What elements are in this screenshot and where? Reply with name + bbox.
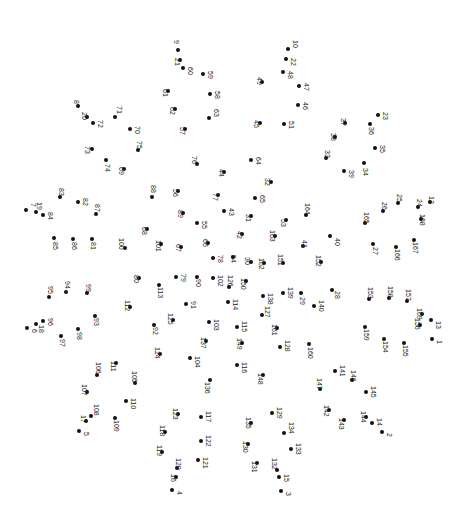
puzzle-dot-17[interactable] (84, 419, 88, 423)
puzzle-dot-124[interactable] (158, 352, 162, 356)
puzzle-dot-101[interactable] (159, 242, 163, 246)
puzzle-dot-29[interactable] (299, 291, 303, 295)
puzzle-dot-16[interactable] (174, 475, 178, 479)
puzzle-dot-136[interactable] (208, 378, 212, 382)
puzzle-dot-157[interactable] (405, 299, 409, 303)
puzzle-dot-144[interactable] (364, 415, 368, 419)
puzzle-dot-1[interactable] (430, 337, 434, 341)
puzzle-dot-42[interactable] (240, 232, 244, 236)
puzzle-dot-137[interactable] (204, 339, 208, 343)
puzzle-dot-49[interactable] (260, 80, 264, 84)
puzzle-dot-108[interactable] (89, 414, 93, 418)
puzzle-dot-41[interactable] (301, 244, 305, 248)
puzzle-dot-47[interactable] (297, 84, 301, 88)
puzzle-dot-97[interactable] (59, 334, 63, 338)
puzzle-dot-84[interactable] (41, 213, 45, 217)
puzzle-dot-160[interactable] (307, 342, 311, 346)
puzzle-dot-118[interactable] (163, 430, 167, 434)
puzzle-dot-38[interactable] (333, 135, 337, 139)
puzzle-dot-36[interactable] (368, 122, 372, 126)
puzzle-dot-65[interactable] (253, 196, 257, 200)
puzzle-dot-57[interactable] (183, 127, 187, 131)
puzzle-dot-93[interactable] (93, 314, 97, 318)
puzzle-dot-135[interactable] (249, 421, 253, 425)
puzzle-dot-148[interactable] (261, 373, 265, 377)
puzzle-dot-113[interactable] (157, 283, 161, 287)
puzzle-dot-122[interactable] (199, 439, 203, 443)
puzzle-dot-147[interactable] (318, 387, 322, 391)
puzzle-dot-121[interactable] (196, 458, 200, 462)
puzzle-dot-10[interactable] (286, 47, 290, 51)
puzzle-dot-99[interactable] (85, 291, 89, 295)
puzzle-dot-34[interactable] (362, 161, 366, 165)
puzzle-dot-149[interactable] (240, 341, 244, 345)
puzzle-dot-54[interactable] (231, 255, 235, 259)
puzzle-dot-94[interactable] (64, 290, 68, 294)
puzzle-dot-2[interactable] (380, 430, 384, 434)
puzzle-dot-89[interactable] (181, 211, 185, 215)
puzzle-dot-44[interactable] (222, 170, 226, 174)
puzzle-dot-156[interactable] (418, 323, 422, 327)
puzzle-dot-67[interactable] (179, 245, 183, 249)
puzzle-dot-33[interactable] (324, 156, 328, 160)
puzzle-dot-167[interactable] (412, 238, 416, 242)
puzzle-dot-134[interactable] (282, 431, 286, 435)
puzzle-dot-74[interactable] (104, 158, 108, 162)
puzzle-dot-80[interactable] (137, 276, 141, 280)
puzzle-dot-78[interactable] (211, 256, 215, 260)
puzzle-dot-6[interactable] (25, 326, 29, 330)
puzzle-dot-19[interactable] (34, 210, 38, 214)
puzzle-dot-62[interactable] (173, 107, 177, 111)
puzzle-dot-23[interactable] (376, 113, 380, 117)
puzzle-dot-31[interactable] (249, 214, 253, 218)
puzzle-dot-120[interactable] (175, 466, 179, 470)
puzzle-dot-100[interactable] (123, 246, 127, 250)
puzzle-dot-133[interactable] (289, 447, 293, 451)
puzzle-dot-86[interactable] (71, 237, 75, 241)
puzzle-dot-32[interactable] (269, 180, 273, 184)
puzzle-dot-66[interactable] (206, 241, 210, 245)
puzzle-dot-83[interactable] (58, 195, 62, 199)
puzzle-dot-162[interactable] (262, 261, 266, 265)
puzzle-dot-18[interactable] (34, 322, 38, 326)
puzzle-dot-123[interactable] (176, 412, 180, 416)
puzzle-dot-153[interactable] (367, 297, 371, 301)
puzzle-dot-9[interactable] (176, 48, 180, 52)
puzzle-dot-139[interactable] (281, 291, 285, 295)
puzzle-dot-106[interactable] (95, 373, 99, 377)
puzzle-dot-82[interactable] (76, 200, 80, 204)
puzzle-dot-22[interactable] (284, 57, 288, 61)
puzzle-dot-75[interactable] (136, 148, 140, 152)
puzzle-dot-165[interactable] (363, 221, 367, 225)
puzzle-dot-104[interactable] (188, 356, 192, 360)
puzzle-dot-51[interactable] (282, 122, 286, 126)
puzzle-dot-163[interactable] (273, 234, 277, 238)
puzzle-dot-81[interactable] (90, 237, 94, 241)
puzzle-dot-168[interactable] (419, 217, 423, 221)
puzzle-dot-56[interactable] (176, 189, 180, 193)
puzzle-dot-64[interactable] (249, 158, 253, 162)
puzzle-dot-130[interactable] (246, 442, 250, 446)
puzzle-dot-25[interactable] (396, 201, 400, 205)
puzzle-dot-30[interactable] (249, 260, 253, 264)
puzzle-dot-154[interactable] (382, 337, 386, 341)
puzzle-dot-27[interactable] (371, 242, 375, 246)
puzzle-dot-114[interactable] (226, 300, 230, 304)
puzzle-dot-117[interactable] (199, 415, 203, 419)
puzzle-dot-158[interactable] (387, 296, 391, 300)
puzzle-dot-92[interactable] (152, 323, 156, 327)
puzzle-dot-95[interactable] (47, 295, 51, 299)
puzzle-dot-43[interactable] (222, 209, 226, 213)
puzzle-dot-15[interactable] (277, 475, 281, 479)
puzzle-dot-77[interactable] (216, 193, 220, 197)
puzzle-dot-143[interactable] (342, 418, 346, 422)
puzzle-dot-73[interactable] (90, 147, 94, 151)
puzzle-dot-103[interactable] (207, 320, 211, 324)
puzzle-dot-126[interactable] (227, 285, 231, 289)
puzzle-dot-161[interactable] (275, 326, 279, 330)
puzzle-dot-14[interactable] (370, 421, 374, 425)
puzzle-dot-109[interactable] (113, 416, 117, 420)
puzzle-dot-142[interactable] (327, 408, 331, 412)
puzzle-dot-119[interactable] (160, 450, 164, 454)
puzzle-dot-4[interactable] (170, 488, 174, 492)
